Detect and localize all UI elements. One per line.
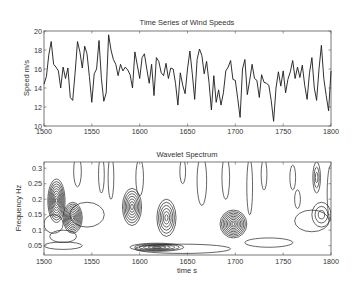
contour-ring: [314, 167, 319, 188]
contour-ring: [290, 165, 296, 190]
figure: Time Series of Wind Speeds 1500155016001…: [0, 0, 356, 287]
contour-ring: [230, 221, 236, 227]
contour-ring: [74, 156, 82, 187]
contour-ring: [129, 202, 134, 213]
contour-ring: [197, 156, 207, 206]
contour-ring: [152, 247, 161, 248]
contour-ring: [261, 159, 267, 190]
y-tick-label: 14: [34, 84, 42, 93]
contour-ring: [315, 172, 318, 182]
contour-ring: [72, 216, 74, 219]
x-tick-label: 1500: [36, 257, 52, 266]
contour-ring: [55, 196, 59, 206]
x-tick-label: 1800: [323, 127, 339, 136]
y-tick-label: 0.05: [28, 241, 42, 250]
contour-ring: [44, 242, 82, 249]
contour-ring: [49, 181, 64, 220]
wavelet-x-label: time s: [177, 266, 197, 275]
y-tick-label: 10: [34, 122, 42, 131]
x-tick-label: 1750: [275, 127, 291, 136]
contour-ring: [247, 159, 253, 215]
timeseries-x-ticks: 1500155016001650170017501800: [36, 31, 339, 136]
timeseries-panel: Time Series of Wind Speeds 1500155016001…: [22, 18, 339, 136]
x-tick-label: 1800: [323, 257, 339, 266]
wavelet-title: Wavelet Spectrum: [157, 150, 218, 159]
wind-speed-series: [44, 35, 331, 122]
x-tick-label: 1750: [275, 257, 291, 266]
timeseries-y-ticks: 101214161820: [34, 27, 331, 131]
x-tick-label: 1550: [84, 257, 100, 266]
y-tick-label: 0.1: [32, 226, 42, 235]
y-tick-label: 0.2: [32, 195, 42, 204]
x-tick-label: 1650: [180, 257, 196, 266]
contour-ring: [158, 202, 174, 233]
wavelet-contours: [44, 156, 335, 254]
y-tick-label: 20: [34, 27, 42, 36]
x-tick-label: 1600: [132, 257, 148, 266]
x-tick-label: 1650: [180, 127, 196, 136]
y-tick-label: 16: [34, 65, 42, 74]
x-tick-label: 1550: [84, 127, 100, 136]
contour-ring: [50, 230, 77, 242]
wavelet-frame: [44, 162, 331, 255]
wavelet-y-label: Frequency Hz: [14, 184, 23, 231]
contour-ring: [67, 209, 78, 226]
y-tick-label: 0.3: [32, 164, 42, 173]
contour-ring: [163, 212, 169, 224]
timeseries-title: Time Series of Wind Speeds: [140, 18, 235, 27]
wavelet-x-ticks: 1500155016001650170017501800: [36, 162, 339, 266]
x-tick-label: 1700: [227, 257, 243, 266]
contour-ring: [226, 216, 241, 232]
contour-ring: [55, 198, 57, 203]
y-tick-label: 0.25: [28, 179, 42, 188]
contour-ring: [131, 204, 134, 209]
contour-ring: [165, 215, 168, 221]
wavelet-panel: Wavelet Spectrum 15001550160016501700175…: [14, 150, 339, 275]
contour-ring: [52, 189, 62, 213]
y-tick-label: 0.15: [28, 210, 42, 219]
x-tick-label: 1600: [132, 127, 148, 136]
y-tick-label: 18: [34, 46, 42, 55]
y-tick-label: 12: [34, 103, 42, 112]
contour-ring: [70, 202, 104, 227]
x-tick-label: 1700: [227, 127, 243, 136]
contour-ring: [245, 238, 293, 247]
contour-ring: [180, 159, 186, 184]
contour-ring: [220, 210, 247, 238]
contour-ring: [232, 222, 235, 225]
contour-ring: [295, 190, 301, 209]
contour-ring: [125, 194, 139, 221]
contour-ring: [222, 212, 246, 237]
contour-ring: [99, 156, 105, 193]
timeseries-y-label: Speed m/s: [22, 60, 31, 96]
